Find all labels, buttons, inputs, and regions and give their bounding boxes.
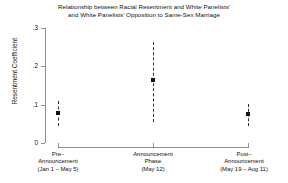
y-tick-mark-1 (41, 105, 45, 106)
x-tick-mark-2 (248, 143, 249, 148)
y-tick-label-0: 0 (18, 140, 38, 146)
data-point-pre-announcement (56, 111, 60, 115)
y-axis-line (45, 28, 46, 143)
x-tick-mark-0 (58, 143, 59, 148)
y-tick-mark-3 (41, 28, 45, 29)
y-tick-label-3: .3 (18, 25, 38, 31)
x-tick-mark-1 (153, 143, 154, 148)
data-point-announcement-phase (151, 78, 155, 82)
y-tick-mark-2 (41, 66, 45, 67)
y-tick-mark-0 (41, 143, 45, 144)
chart-title: Relationship between Racial Resentment a… (14, 3, 274, 19)
x-category-label-announcement-phase: Announcement Phase (May 12) (109, 151, 197, 173)
chart-figure: Relationship between Racial Resentment a… (0, 0, 288, 183)
data-point-post-announcement (246, 112, 250, 116)
y-axis-title: Resentment Coefficient (12, 19, 18, 123)
y-tick-label-1: .1 (18, 102, 38, 108)
x-category-label-pre-announcement: Pre– Announcement (Jan 1 – May 5) (14, 151, 102, 173)
errorbar-announcement-phase (153, 42, 154, 122)
x-category-label-post-announcement: Post– Announcement (May 19 – Aug 11) (200, 151, 288, 173)
y-tick-label-2: .2 (18, 63, 38, 69)
